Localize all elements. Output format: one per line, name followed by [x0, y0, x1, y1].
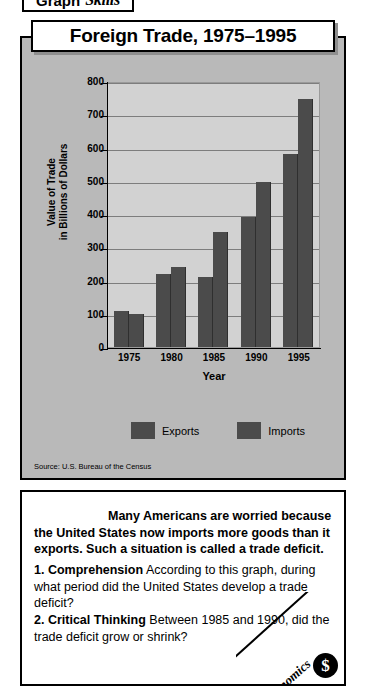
- y-axis-tick-mark: [101, 283, 108, 284]
- legend-label: Exports: [162, 425, 199, 437]
- bar-group: [283, 99, 313, 347]
- y-axis-tick-mark: [101, 150, 108, 151]
- y-axis-tick-mark: [101, 249, 108, 250]
- bar-imports-1995: [298, 99, 313, 347]
- x-axis-tick-label: 1985: [203, 352, 225, 363]
- bar-exports-1985: [198, 277, 213, 347]
- y-axis-tick-label: 400: [87, 209, 104, 220]
- legend-label: Imports: [268, 425, 305, 437]
- dollar-coin-icon: $: [313, 653, 338, 678]
- y-axis-tick-mark: [101, 116, 108, 117]
- economics-corner-badge: Economics $: [236, 592, 344, 684]
- page-title: Foreign Trade, 1975–1995: [70, 25, 297, 47]
- intro-text: Many Americans are worried because the U…: [34, 509, 331, 556]
- y-axis-tick-mark: [101, 349, 108, 350]
- graph-skills-panel: Many Americans are worried because the U…: [20, 490, 346, 686]
- x-axis-tick-label: 1995: [288, 352, 310, 363]
- x-axis-tick-labels: 19751980198519901995: [108, 352, 320, 363]
- legend-swatch: [131, 422, 155, 439]
- x-axis-tick-label: 1990: [245, 352, 267, 363]
- y-axis-tick-mark: [101, 216, 108, 217]
- y-axis-tick-label: 500: [87, 176, 104, 187]
- y-axis-tick-label: 200: [87, 276, 104, 287]
- chart-legend: ExportsImports: [108, 422, 328, 439]
- question-number: 2.: [34, 613, 44, 627]
- question-number: 1.: [34, 563, 44, 577]
- bar-group: [114, 311, 144, 347]
- y-axis-tick-label: 100: [87, 309, 104, 320]
- bar-exports-1995: [283, 154, 298, 347]
- chart-panel: Value of Trade in Billions of Dollars 80…: [20, 36, 346, 480]
- legend-item-imports: Imports: [237, 422, 305, 439]
- y-axis-tick-label: 700: [87, 109, 104, 120]
- bar-imports-1980: [171, 267, 186, 347]
- y-axis-title-line2: in Billions of Dollars: [58, 144, 69, 241]
- x-axis-tick-label: 1980: [160, 352, 182, 363]
- graph-skills-badge: Graph Skills: [22, 0, 134, 12]
- bar-groups: [108, 83, 319, 347]
- bar-exports-1975: [114, 311, 129, 347]
- y-axis-tick-mark: [101, 316, 108, 317]
- badge-word-graph: Graph: [36, 0, 80, 9]
- x-axis-title: Year: [108, 370, 320, 382]
- corner-badge-label: Economics: [259, 656, 314, 684]
- legend-swatch: [237, 422, 261, 439]
- bar-group: [156, 267, 186, 347]
- chart-title-box: Foreign Trade, 1975–1995: [31, 20, 335, 52]
- bar-group: [241, 182, 271, 347]
- y-axis-tick-mark: [101, 83, 108, 84]
- question-kind: Critical Thinking: [48, 613, 146, 627]
- question-kind: Comprehension: [48, 563, 143, 577]
- bar-group: [198, 232, 228, 347]
- x-axis-tick-label: 1975: [118, 352, 140, 363]
- y-axis-title: Value of Trade in Billions of Dollars: [46, 112, 70, 272]
- y-axis-tick-label: 0: [98, 342, 104, 353]
- gridline: [108, 349, 319, 350]
- bar-imports-1985: [213, 232, 228, 347]
- y-axis-tick-label: 300: [87, 242, 104, 253]
- y-axis-title-line1: Value of Trade: [46, 158, 57, 226]
- legend-item-exports: Exports: [131, 422, 199, 439]
- bar-imports-1990: [256, 182, 271, 347]
- badge-word-skills: Skills: [85, 0, 120, 9]
- bar-imports-1975: [129, 314, 144, 347]
- plot-area: 8007006005004003002001000: [108, 82, 320, 348]
- plot-wrapper: Value of Trade in Billions of Dollars 80…: [22, 68, 348, 398]
- y-axis-tick-label: 600: [87, 143, 104, 154]
- bar-exports-1990: [241, 217, 256, 347]
- bar-exports-1980: [156, 274, 171, 347]
- intro-paragraph: Many Americans are worried because the U…: [34, 508, 336, 558]
- y-axis-tick-label: 800: [87, 76, 104, 87]
- y-axis-tick-mark: [101, 183, 108, 184]
- source-note: Source: U.S. Bureau of the Census: [34, 462, 151, 471]
